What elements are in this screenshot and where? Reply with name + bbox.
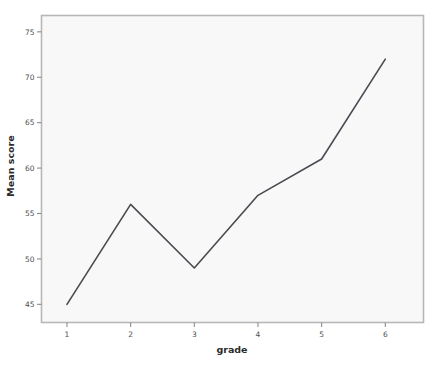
x-axis-tick-label: 2 [128, 330, 133, 339]
y-axis-tick-label: 45 [25, 300, 35, 309]
y-axis-tick-label: 65 [25, 118, 35, 127]
y-axis-tick-label: 60 [25, 164, 35, 173]
y-axis-tick-label: 50 [25, 255, 35, 264]
line-chart: 45505560657075 123456 grade Mean score [0, 0, 434, 367]
y-axis-tick-label: 55 [25, 209, 35, 218]
y-axis-title: Mean score [5, 135, 16, 196]
x-axis-tick-label: 6 [383, 330, 388, 339]
y-axis-tick-label: 75 [25, 28, 35, 37]
chart-canvas: 45505560657075 123456 grade Mean score [0, 0, 434, 367]
y-axis-tick-label: 70 [25, 73, 35, 82]
plot-area-frame [42, 16, 424, 323]
x-axis-tick-label: 1 [65, 330, 70, 339]
x-axis-tick-label: 5 [319, 330, 324, 339]
x-axis-tick-label: 3 [192, 330, 197, 339]
x-axis-tick-label: 4 [256, 330, 261, 339]
x-axis-title: grade [216, 344, 247, 355]
